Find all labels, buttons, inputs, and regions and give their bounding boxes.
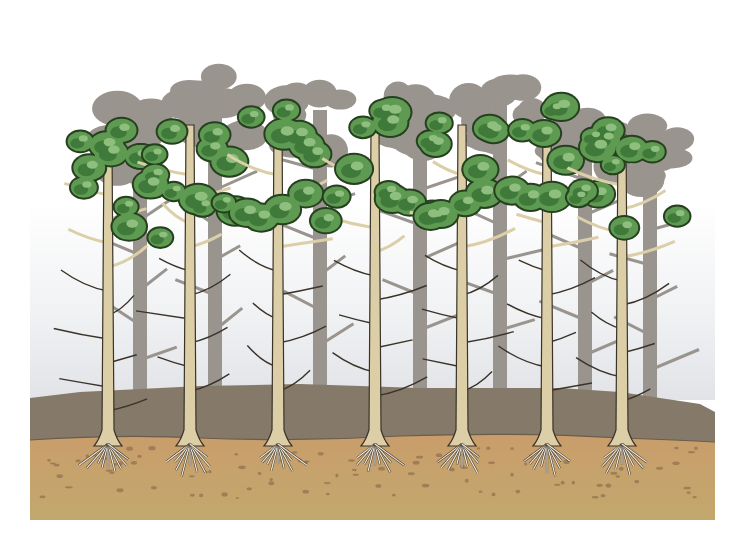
pebble bbox=[65, 486, 73, 488]
pebble bbox=[610, 472, 617, 475]
pebble bbox=[601, 494, 606, 497]
pebble bbox=[392, 494, 395, 497]
pebble bbox=[656, 467, 663, 470]
pebble bbox=[634, 480, 639, 484]
pebble bbox=[688, 451, 695, 453]
forest-illustration bbox=[0, 0, 747, 545]
pebble bbox=[515, 490, 520, 494]
pebble bbox=[189, 475, 195, 477]
pebble bbox=[479, 491, 483, 493]
pebble bbox=[326, 493, 330, 495]
pebble bbox=[694, 446, 697, 450]
pebble bbox=[236, 497, 239, 499]
pebble bbox=[687, 491, 691, 493]
pebble bbox=[47, 459, 51, 462]
pebble bbox=[465, 479, 469, 483]
pebble bbox=[486, 446, 490, 449]
pebble bbox=[238, 465, 246, 469]
pebble bbox=[683, 487, 691, 490]
pebble bbox=[450, 468, 455, 472]
pebble bbox=[378, 467, 385, 471]
pebble bbox=[56, 474, 63, 478]
pebble bbox=[199, 494, 203, 498]
pebble bbox=[436, 453, 442, 457]
pebble bbox=[324, 482, 331, 484]
pebble bbox=[258, 472, 261, 475]
pebble bbox=[572, 481, 575, 485]
pebble bbox=[39, 496, 45, 499]
pebble bbox=[75, 459, 80, 462]
pebble bbox=[488, 461, 495, 464]
pebble bbox=[692, 496, 696, 498]
pebble bbox=[335, 474, 338, 478]
pebble bbox=[247, 487, 252, 490]
pebble bbox=[318, 452, 324, 456]
pebble bbox=[137, 455, 141, 458]
pebble bbox=[674, 447, 679, 450]
pebble bbox=[126, 447, 133, 451]
pebble bbox=[234, 453, 238, 455]
pebble bbox=[131, 461, 137, 465]
pebble bbox=[605, 483, 611, 487]
pebble bbox=[302, 490, 309, 494]
pebble bbox=[208, 470, 211, 473]
pebble bbox=[672, 461, 679, 465]
pebble bbox=[592, 496, 599, 499]
pebble bbox=[375, 484, 381, 488]
pebble bbox=[616, 475, 620, 477]
pebble bbox=[510, 473, 513, 477]
pebble bbox=[348, 459, 355, 462]
pebble bbox=[352, 469, 357, 471]
pebble bbox=[510, 447, 514, 450]
pebble bbox=[492, 493, 496, 497]
pebble bbox=[422, 484, 430, 488]
pebble bbox=[54, 464, 60, 467]
pebble bbox=[408, 472, 415, 475]
pebble bbox=[268, 481, 274, 485]
pebble bbox=[106, 470, 113, 472]
pebble bbox=[222, 492, 228, 496]
pebble bbox=[477, 447, 480, 449]
pebble bbox=[148, 446, 155, 450]
pebble bbox=[190, 494, 195, 497]
pebble bbox=[151, 486, 157, 489]
pebble bbox=[554, 484, 560, 486]
pebble bbox=[561, 481, 565, 485]
pebble bbox=[109, 472, 114, 475]
pebble bbox=[596, 484, 602, 487]
pebble bbox=[619, 467, 624, 471]
pebble bbox=[416, 456, 423, 459]
pebble bbox=[353, 474, 359, 476]
pebble bbox=[413, 461, 420, 465]
pebble bbox=[269, 478, 272, 481]
pebble bbox=[524, 462, 527, 465]
pebble bbox=[116, 488, 123, 492]
